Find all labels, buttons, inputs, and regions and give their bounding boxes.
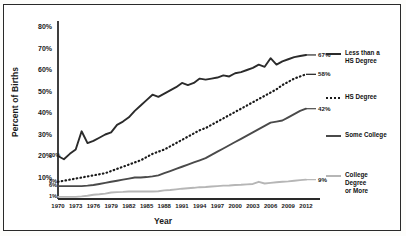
series-start-label: 20% [49, 152, 60, 158]
legend-swatch-solid-line-icon [326, 50, 341, 59]
series-line [58, 55, 306, 159]
legend-swatch-solid-line-icon [326, 132, 341, 141]
legend-label: Some College [345, 131, 387, 139]
series-line [58, 180, 306, 197]
series-end-label: 42% [318, 105, 330, 112]
legend-item[interactable]: Less than a HS Degree [326, 49, 380, 65]
series-start-label: 1% [49, 193, 57, 199]
series-end-label: 58% [318, 70, 330, 77]
legend-swatch-dotted-line-icon [326, 94, 341, 103]
legend-item[interactable]: Some College [326, 131, 387, 141]
chart-screenshot: Percent of Births Year 10%20%30%40%50%60… [0, 0, 406, 236]
legend-swatch-solid-line-icon [326, 172, 341, 181]
series-start-label: 6% [49, 182, 57, 188]
legend-label: HS Degree [345, 93, 377, 101]
legend-item[interactable]: HS Degree [326, 93, 377, 103]
legend-label: College Degree or More [345, 171, 368, 195]
legend-label: Less than a HS Degree [345, 49, 380, 65]
chart-frame: Percent of Births Year 10%20%30%40%50%60… [3, 4, 401, 231]
legend-item[interactable]: College Degree or More [326, 171, 368, 195]
series-line [58, 74, 306, 182]
plot-area [4, 5, 402, 232]
